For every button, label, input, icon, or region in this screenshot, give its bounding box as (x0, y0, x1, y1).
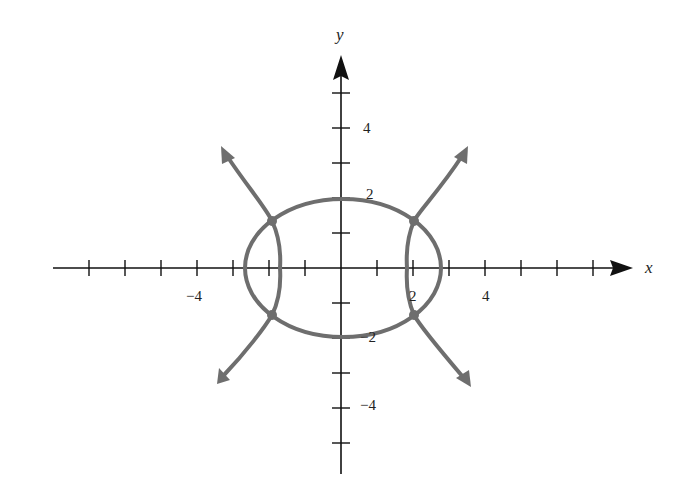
y-tick-label-2: 2 (366, 186, 374, 202)
x-axis (53, 260, 633, 276)
x-tick-label-neg4: −4 (186, 288, 202, 304)
y-tick-label-4: 4 (363, 120, 371, 136)
intersection-point (409, 310, 419, 320)
intersection-point (267, 216, 277, 226)
intersection-point (409, 216, 419, 226)
y-tick-label-neg4: −4 (360, 397, 376, 413)
y-axis (332, 55, 350, 474)
y-axis-label: y (334, 25, 344, 44)
x-axis-arrow-icon (610, 260, 633, 276)
x-tick-label-2: 2 (409, 288, 417, 304)
intersection-point (267, 310, 277, 320)
x-tick-label-4: 4 (482, 288, 490, 304)
curves (217, 146, 471, 387)
hyperbola-right-branch (407, 156, 463, 377)
x-axis-label: x (644, 258, 653, 277)
y-tick-label-neg2: −2 (360, 329, 376, 345)
axis-labels: y x −4 2 4 4 2 −2 −4 (186, 25, 653, 413)
ellipse-hyperbola-diagram: y x −4 2 4 4 2 −2 −4 (0, 0, 683, 498)
